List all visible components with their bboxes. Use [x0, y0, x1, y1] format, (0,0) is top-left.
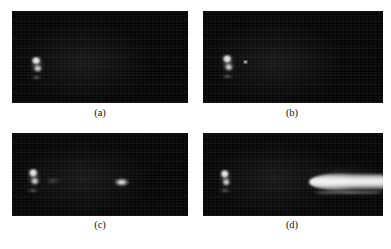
detached-oval-blob	[113, 178, 131, 188]
faint-smear	[46, 177, 64, 185]
figure-container: (a) (b) (c) (d)	[0, 0, 391, 249]
source-underline	[221, 75, 234, 78]
panel-d-image	[203, 133, 383, 216]
plume-shadow-bar	[313, 191, 383, 194]
panel-d-label: (d)	[272, 219, 312, 231]
panel-a-image	[12, 11, 188, 103]
panel-c-label: (c)	[80, 219, 120, 231]
panel-c-image	[12, 133, 188, 216]
source-blob	[27, 168, 41, 188]
elongated-plume	[309, 173, 383, 191]
source-blob	[221, 54, 235, 74]
detached-speck	[243, 60, 248, 64]
source-underline	[218, 189, 232, 192]
source-underline	[30, 76, 43, 79]
panel-b-image	[203, 11, 383, 103]
source-blob	[30, 56, 44, 75]
source-blob	[219, 169, 232, 189]
panel-a-label: (a)	[80, 107, 120, 119]
source-underline	[26, 189, 40, 192]
panel-b-label: (b)	[272, 107, 312, 119]
